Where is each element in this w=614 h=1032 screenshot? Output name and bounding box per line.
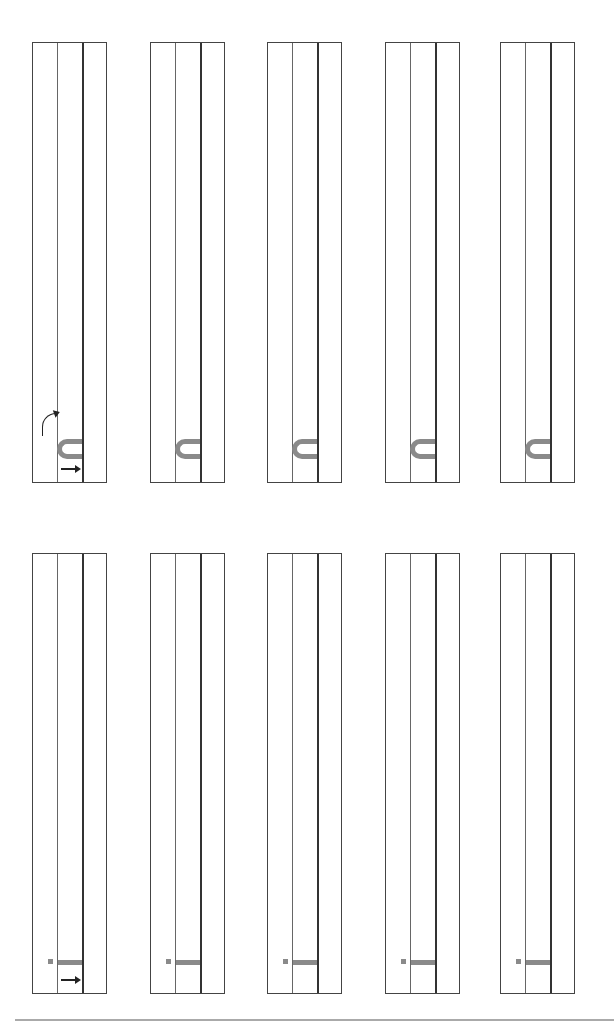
letter-i-stem bbox=[176, 960, 200, 965]
letter-i-stem bbox=[411, 960, 435, 965]
letter-n-glyph bbox=[292, 439, 317, 459]
letter-i-dot bbox=[516, 959, 521, 964]
baseline bbox=[435, 554, 437, 993]
baseline bbox=[82, 554, 84, 993]
practice-box-n bbox=[267, 42, 342, 483]
baseline bbox=[317, 43, 319, 482]
letter-i-stem bbox=[293, 960, 317, 965]
letter-i-dot bbox=[401, 959, 406, 964]
practice-box-i bbox=[32, 553, 107, 994]
guide-line bbox=[292, 554, 293, 993]
guide-line bbox=[525, 554, 526, 993]
practice-box-i bbox=[500, 553, 575, 994]
letter-n-glyph bbox=[525, 439, 550, 459]
letter-i-stem bbox=[58, 960, 82, 965]
letter-i-dot bbox=[48, 959, 53, 964]
guide-line bbox=[410, 43, 411, 482]
practice-box-n bbox=[150, 42, 225, 483]
stroke-direction-arrow-icon bbox=[61, 979, 77, 981]
guide-line bbox=[175, 554, 176, 993]
practice-box-n bbox=[32, 42, 107, 483]
footer-divider bbox=[15, 1019, 614, 1021]
baseline bbox=[200, 554, 202, 993]
practice-box-n bbox=[385, 42, 460, 483]
guide-line bbox=[525, 43, 526, 482]
baseline bbox=[550, 554, 552, 993]
guide-line bbox=[292, 43, 293, 482]
baseline bbox=[550, 43, 552, 482]
practice-box-n bbox=[500, 42, 575, 483]
baseline bbox=[435, 43, 437, 482]
letter-i-dot bbox=[283, 959, 288, 964]
guide-line bbox=[410, 554, 411, 993]
stroke-direction-arrow-icon bbox=[61, 468, 77, 470]
baseline bbox=[317, 554, 319, 993]
baseline bbox=[82, 43, 84, 482]
practice-box-i bbox=[150, 553, 225, 994]
guide-line bbox=[175, 43, 176, 482]
guide-line bbox=[57, 554, 58, 993]
letter-n-glyph bbox=[175, 439, 200, 459]
curved-stroke-arrow-icon bbox=[42, 413, 57, 436]
baseline bbox=[200, 43, 202, 482]
letter-n-glyph bbox=[57, 439, 82, 459]
practice-box-i bbox=[267, 553, 342, 994]
letter-n-glyph bbox=[410, 439, 435, 459]
letter-i-stem bbox=[526, 960, 550, 965]
practice-box-i bbox=[385, 553, 460, 994]
letter-i-dot bbox=[166, 959, 171, 964]
